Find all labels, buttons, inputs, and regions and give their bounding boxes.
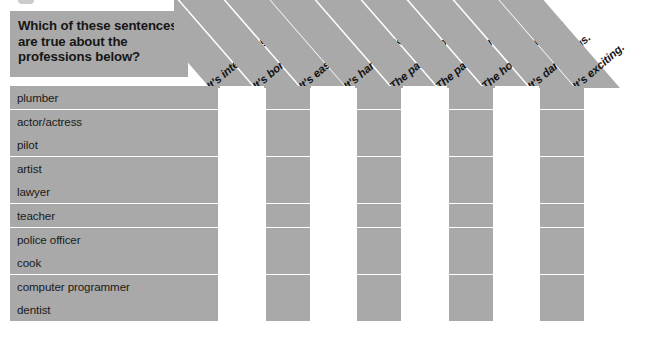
answer-cell[interactable] <box>449 298 493 321</box>
answer-cell[interactable] <box>495 180 539 203</box>
answer-cell[interactable] <box>540 110 584 133</box>
answer-cell[interactable] <box>174 204 218 227</box>
answer-cell[interactable] <box>495 110 539 133</box>
answer-cell[interactable] <box>495 275 539 298</box>
answer-cell[interactable] <box>174 251 218 274</box>
answer-cell[interactable] <box>220 251 264 274</box>
answer-cell[interactable] <box>220 298 264 321</box>
row-label-dentist: dentist <box>10 298 174 321</box>
answer-cell[interactable] <box>174 180 218 203</box>
answer-cell[interactable] <box>266 251 310 274</box>
answer-cell[interactable] <box>495 133 539 156</box>
answer-cell[interactable] <box>449 228 493 251</box>
answer-cell[interactable] <box>174 133 218 156</box>
answer-cell[interactable] <box>357 275 401 298</box>
answer-cell[interactable] <box>449 110 493 133</box>
answer-cell[interactable] <box>357 157 401 180</box>
answer-cell[interactable] <box>449 86 493 109</box>
answer-cell[interactable] <box>220 157 264 180</box>
answer-cell[interactable] <box>174 86 218 109</box>
answer-cell[interactable] <box>449 180 493 203</box>
answer-cell[interactable] <box>449 251 493 274</box>
answer-cell[interactable] <box>403 275 447 298</box>
answer-cell[interactable] <box>403 180 447 203</box>
answer-cell[interactable] <box>174 228 218 251</box>
answer-cell[interactable] <box>311 228 355 251</box>
answer-cell[interactable] <box>220 86 264 109</box>
answer-cell[interactable] <box>540 180 584 203</box>
answer-cell[interactable] <box>357 251 401 274</box>
answer-cell[interactable] <box>540 228 584 251</box>
answer-cell[interactable] <box>495 204 539 227</box>
answer-cell[interactable] <box>540 251 584 274</box>
table-row: dentist <box>10 298 652 321</box>
answer-cell[interactable] <box>357 298 401 321</box>
answer-cell[interactable] <box>266 86 310 109</box>
answer-cell[interactable] <box>220 204 264 227</box>
answer-cell[interactable] <box>403 86 447 109</box>
answer-cell[interactable] <box>266 110 310 133</box>
answer-cell[interactable] <box>311 251 355 274</box>
answer-cell[interactable] <box>540 204 584 227</box>
page-top-mark <box>18 0 34 4</box>
answer-cell[interactable] <box>403 251 447 274</box>
answer-cell[interactable] <box>357 86 401 109</box>
answer-cell[interactable] <box>540 86 584 109</box>
answer-cell[interactable] <box>495 157 539 180</box>
answer-cell[interactable] <box>311 204 355 227</box>
worksheet: Which of these sentences are true about … <box>0 0 662 339</box>
answer-cell[interactable] <box>495 228 539 251</box>
answer-cell[interactable] <box>449 157 493 180</box>
answer-cell[interactable] <box>174 110 218 133</box>
row-label-lawyer: lawyer <box>10 180 174 203</box>
table-row: cook <box>10 251 652 274</box>
answer-cell[interactable] <box>311 275 355 298</box>
answer-cell[interactable] <box>495 86 539 109</box>
answer-cell[interactable] <box>311 298 355 321</box>
answer-cell[interactable] <box>174 298 218 321</box>
table-row: police officer <box>10 228 652 251</box>
answer-cell[interactable] <box>540 275 584 298</box>
answer-cell[interactable] <box>266 298 310 321</box>
answer-cell[interactable] <box>220 133 264 156</box>
answer-cell[interactable] <box>311 180 355 203</box>
answer-cell[interactable] <box>311 110 355 133</box>
answer-cell[interactable] <box>449 275 493 298</box>
answer-cell[interactable] <box>357 133 401 156</box>
answer-cell[interactable] <box>403 110 447 133</box>
answer-cell[interactable] <box>540 133 584 156</box>
answer-cell[interactable] <box>174 275 218 298</box>
answer-cell[interactable] <box>220 180 264 203</box>
column-header-band-group: It's interesting.It's boring.It's easy.I… <box>174 0 662 88</box>
answer-cell[interactable] <box>403 204 447 227</box>
answer-cell[interactable] <box>403 157 447 180</box>
row-label-artist: artist <box>10 157 174 180</box>
answer-cell[interactable] <box>357 204 401 227</box>
answer-cell[interactable] <box>266 157 310 180</box>
answer-cell[interactable] <box>174 157 218 180</box>
answer-cell[interactable] <box>266 275 310 298</box>
answer-cell[interactable] <box>220 228 264 251</box>
answer-cell[interactable] <box>311 157 355 180</box>
answer-cell[interactable] <box>403 298 447 321</box>
answer-cell[interactable] <box>403 133 447 156</box>
question-header: Which of these sentences are true about … <box>10 11 188 77</box>
answer-cell[interactable] <box>311 133 355 156</box>
answer-cell[interactable] <box>357 110 401 133</box>
answer-cell[interactable] <box>220 110 264 133</box>
answer-cell[interactable] <box>266 204 310 227</box>
answer-cell[interactable] <box>266 228 310 251</box>
answer-cell[interactable] <box>357 180 401 203</box>
answer-cell[interactable] <box>220 275 264 298</box>
answer-cell[interactable] <box>266 180 310 203</box>
answer-cell[interactable] <box>495 298 539 321</box>
answer-cell[interactable] <box>449 204 493 227</box>
answer-cell[interactable] <box>495 251 539 274</box>
answer-cell[interactable] <box>540 298 584 321</box>
answer-cell[interactable] <box>266 133 310 156</box>
answer-cell[interactable] <box>449 133 493 156</box>
answer-cell[interactable] <box>540 157 584 180</box>
answer-cell[interactable] <box>403 228 447 251</box>
answer-cell[interactable] <box>357 228 401 251</box>
answer-cell[interactable] <box>311 86 355 109</box>
